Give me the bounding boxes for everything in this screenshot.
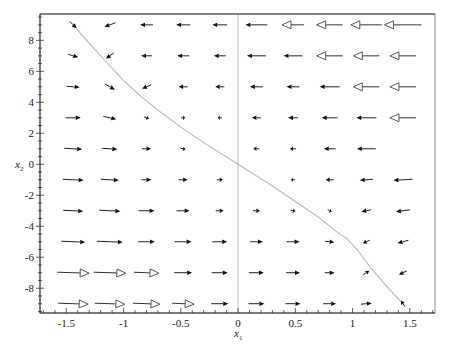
arrow-shaft (365, 179, 373, 180)
field-arrow (215, 85, 224, 89)
field-arrow (325, 240, 334, 244)
field-arrow (142, 147, 151, 151)
arrow-head-hollow (282, 21, 291, 29)
arrow-shaft (61, 241, 80, 242)
arrow-shaft (109, 23, 115, 25)
arrow-head (146, 147, 151, 151)
arrow-head-hollow (390, 52, 399, 60)
arrow-shaft (402, 240, 408, 242)
arrow-shaft (403, 304, 405, 307)
field-arrow (282, 21, 304, 29)
y-tick-label: 0 (29, 158, 35, 170)
vector-field-chart: -1.5-1-0.500.511.5 86420-2-4-6-8 x1 x2 (0, 0, 451, 351)
field-arrow (179, 85, 188, 89)
arrow-head (118, 240, 123, 244)
arrow-shaft (363, 273, 366, 275)
arrow-head (220, 209, 224, 213)
arrow-head-hollow (150, 269, 159, 277)
arrow-head (329, 240, 334, 244)
field-arrow (140, 23, 153, 27)
arrow-head (220, 178, 223, 182)
x-tick-label: 0.5 (288, 317, 302, 329)
field-arrow (324, 147, 336, 151)
x-tick-label: 1 (350, 317, 356, 329)
arrow-head-hollow (353, 83, 362, 91)
arrow-head (106, 54, 111, 59)
arrow-shaft (103, 116, 111, 118)
x-tick-label: 1.5 (403, 317, 417, 329)
x-tick-label: -1.5 (58, 317, 76, 329)
y-tick-label: -8 (25, 282, 35, 294)
arrow-shaft (325, 241, 330, 242)
arrow-head (112, 147, 117, 151)
y-tick-label: 2 (29, 127, 35, 139)
arrow-head (290, 147, 293, 151)
field-arrow (102, 147, 117, 151)
x-tick-label: -1 (119, 317, 128, 329)
arrow-shaft (366, 210, 371, 211)
arrow-head (150, 240, 155, 244)
field-arrow (216, 209, 224, 213)
field-arrow (61, 240, 85, 244)
arrow-head (140, 23, 145, 27)
field-arrow (248, 302, 264, 306)
field-arrow (360, 178, 373, 182)
field-arrow (363, 240, 370, 244)
field-arrow (101, 178, 119, 182)
field-arrow (172, 300, 194, 308)
arrow-head (185, 209, 190, 213)
field-arrow (249, 271, 264, 275)
arrow-head (75, 85, 80, 89)
arrow-shaft (102, 148, 112, 149)
field-arrow (361, 301, 372, 305)
field-arrow (177, 54, 189, 58)
field-arrow (291, 209, 296, 213)
field-arrow (63, 178, 84, 182)
arrow-head (247, 54, 252, 58)
arrow-head-hollow (117, 269, 126, 277)
field-arrow (390, 114, 416, 122)
field-arrow (58, 300, 88, 308)
field-arrow (252, 116, 261, 120)
arrow-head (295, 271, 300, 275)
field-arrow (322, 116, 338, 120)
field-arrow (393, 178, 412, 182)
field-arrow (317, 21, 343, 29)
y-tick-label: -6 (25, 251, 35, 263)
arrow-head (215, 85, 220, 89)
field-arrow (97, 240, 123, 244)
field-arrow (390, 52, 416, 60)
arrow-head (146, 178, 151, 182)
field-arrow (390, 83, 416, 91)
field-arrow (141, 54, 152, 58)
arrow-head (177, 54, 182, 58)
field-arrow (133, 300, 160, 308)
arrow-head-hollow (79, 300, 88, 308)
arrow-head (183, 178, 188, 182)
field-arrow (94, 269, 126, 277)
field-arrow (245, 23, 267, 27)
field-arrow (320, 85, 340, 89)
field-arrow (326, 178, 334, 182)
field-arrow (212, 23, 227, 27)
field-arrow (138, 240, 155, 244)
arrow-shaft (63, 179, 79, 180)
arrow-head (396, 209, 401, 213)
arrow-shaft (58, 303, 79, 304)
arrow-head (223, 271, 228, 275)
arrow-head-hollow (151, 300, 160, 308)
field-arrow (325, 271, 335, 275)
field-arrow (214, 54, 226, 58)
field-arrow (287, 85, 300, 89)
arrow-shaft (181, 148, 184, 149)
arrow-field (57, 21, 421, 308)
arrow-shaft (172, 303, 185, 304)
arrow-shaft (101, 179, 114, 180)
field-arrow (286, 302, 301, 306)
arrow-head (393, 178, 398, 182)
field-arrow (134, 269, 159, 277)
arrow-head (223, 302, 228, 306)
arrow-shaft (144, 117, 147, 118)
field-arrow (397, 240, 408, 244)
x-axis-label: x1 (233, 327, 243, 342)
